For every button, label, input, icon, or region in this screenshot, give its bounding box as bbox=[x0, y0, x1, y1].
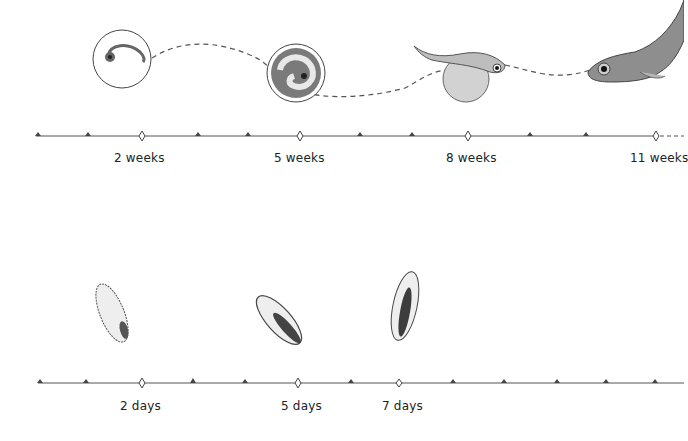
label-7-days: 7 days bbox=[382, 399, 423, 413]
days-minor-ticks bbox=[37, 378, 658, 383]
label-8-weeks: 8 weeks bbox=[446, 151, 497, 165]
egg-2-weeks-icon bbox=[93, 30, 151, 88]
larva-yolk-8-weeks-icon bbox=[414, 46, 505, 102]
juvenile-fish-11-weeks-icon bbox=[588, 0, 684, 82]
label-11-weeks: 11 weeks bbox=[630, 151, 688, 165]
weeks-minor-ticks bbox=[35, 132, 589, 136]
larva-2-days-icon bbox=[89, 280, 134, 346]
dashed-connector-weeks-2 bbox=[505, 65, 590, 75]
label-2-days: 2 days bbox=[120, 399, 161, 413]
larva-7-days-icon bbox=[386, 269, 424, 342]
egg-5-weeks-icon bbox=[267, 44, 325, 102]
larva-5-days-icon bbox=[249, 289, 308, 351]
label-5-weeks: 5 weeks bbox=[274, 151, 325, 165]
label-5-days: 5 days bbox=[281, 399, 322, 413]
label-2-weeks: 2 weeks bbox=[114, 151, 165, 165]
